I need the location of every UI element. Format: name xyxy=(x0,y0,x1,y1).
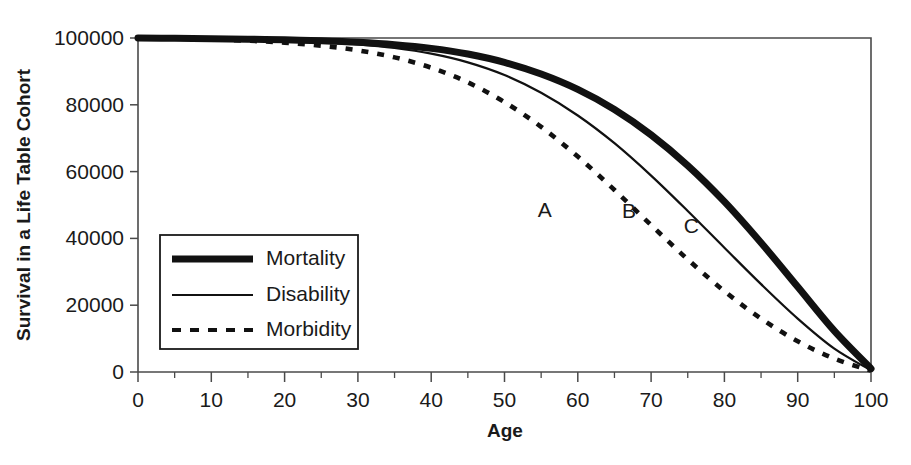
y-tick-label: 40000 xyxy=(66,226,124,249)
y-tick-label: 60000 xyxy=(66,160,124,183)
curve-label-a: A xyxy=(538,198,552,221)
y-tick-label: 0 xyxy=(112,360,124,383)
x-tick-label: 0 xyxy=(132,388,144,411)
x-axis-title: Age xyxy=(487,420,523,441)
legend-label-morbidity: Morbidity xyxy=(266,317,352,340)
x-tick-label: 30 xyxy=(346,388,369,411)
x-tick-label: 50 xyxy=(493,388,516,411)
x-tick-label: 100 xyxy=(853,388,888,411)
y-tick-label: 20000 xyxy=(66,293,124,316)
y-tick-label: 80000 xyxy=(66,93,124,116)
x-tick-label: 70 xyxy=(639,388,662,411)
legend-label-mortality: Mortality xyxy=(266,246,346,269)
curve-label-c: C xyxy=(684,214,699,237)
survival-curve-chart: 020000400006000080000100000 010203040506… xyxy=(0,0,911,465)
x-tick-label: 20 xyxy=(273,388,296,411)
x-tick-label: 90 xyxy=(786,388,809,411)
chart-legend: MortalityDisabilityMorbidity xyxy=(160,235,358,349)
x-axis-tick-labels: 0102030405060708090100 xyxy=(132,388,888,411)
y-axis-ticks xyxy=(130,38,138,372)
chart-canvas: 020000400006000080000100000 010203040506… xyxy=(0,0,911,465)
y-axis-title: Survival in a Life Table Cohort xyxy=(13,68,34,341)
y-tick-label: 100000 xyxy=(54,26,124,49)
x-tick-label: 60 xyxy=(566,388,589,411)
y-axis-tick-labels: 020000400006000080000100000 xyxy=(54,26,124,383)
x-tick-label: 80 xyxy=(713,388,736,411)
x-tick-label: 10 xyxy=(200,388,223,411)
x-tick-label: 40 xyxy=(420,388,443,411)
legend-label-disability: Disability xyxy=(266,282,351,305)
curve-label-b: B xyxy=(622,199,636,222)
curve-annotations: ABC xyxy=(538,198,699,238)
